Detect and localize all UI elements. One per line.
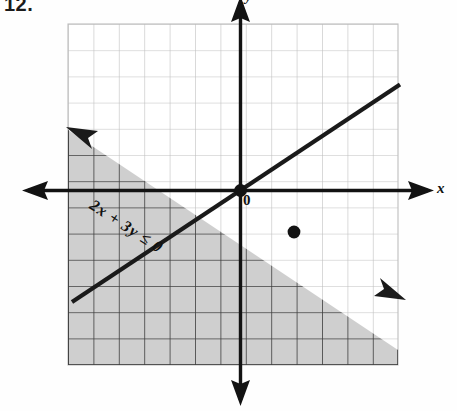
coordinate-graph-figure (0, 0, 457, 411)
worksheet-page: 12. (0, 0, 457, 411)
origin-label: 0 (243, 192, 251, 209)
x-axis-label: x (437, 180, 445, 197)
y-axis-label: y (245, 0, 252, 5)
point-on-line (288, 226, 301, 239)
